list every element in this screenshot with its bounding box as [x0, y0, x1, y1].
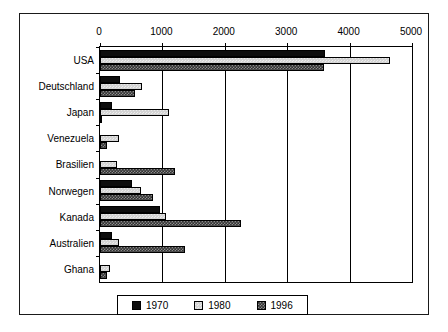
category-label: USA — [73, 55, 94, 66]
x-axis-tick-labels: 010002000300040005000 — [20, 25, 430, 39]
category-label: Deutschland — [38, 81, 94, 92]
bar-1980-kanada — [100, 213, 166, 220]
legend-label: 1980 — [208, 300, 230, 311]
category-label: Australien — [50, 237, 94, 248]
x-tick-label: 5000 — [400, 25, 422, 39]
swatch-1980-icon — [194, 301, 203, 310]
legend-entry: 1980 — [194, 300, 230, 311]
bar-1970-norwegen — [100, 180, 132, 187]
x-tick-label: 4000 — [337, 25, 359, 39]
category-label: Kanada — [60, 211, 94, 222]
bar-1996-venezuela — [100, 142, 107, 149]
legend-label: 1996 — [271, 300, 293, 311]
y-tick-mark — [96, 125, 100, 126]
bar-1996-japan — [100, 116, 102, 123]
bar-group: Kanada — [100, 204, 412, 230]
bar-group: Japan — [100, 99, 412, 125]
bar-1970-japan — [100, 102, 112, 109]
bar-1996-deutschland — [100, 90, 135, 97]
y-tick-mark — [96, 230, 100, 231]
gridline — [412, 47, 413, 282]
bar-1970-kanada — [100, 206, 160, 213]
x-tick-label: 3000 — [275, 25, 297, 39]
legend-entry: 1996 — [257, 300, 293, 311]
bar-group: Ghana — [100, 256, 412, 282]
bar-1980-venezuela — [100, 135, 119, 142]
bar-group: USA — [100, 47, 412, 73]
category-label: Ghana — [64, 263, 94, 274]
bar-1996-brasilien — [100, 168, 175, 175]
bar-1980-japan — [100, 109, 169, 116]
category-label: Brasilien — [56, 159, 94, 170]
bar-group: Australien — [100, 230, 412, 256]
plot-area: USADeutschlandJapanVenezuelaBrasilienNor… — [99, 46, 413, 283]
bar-1996-australien — [100, 246, 185, 253]
y-tick-mark — [96, 47, 100, 48]
bar-1980-ghana — [100, 265, 110, 272]
bar-group: Norwegen — [100, 178, 412, 204]
bar-group: Deutschland — [100, 73, 412, 99]
x-tick-label: 1000 — [150, 25, 172, 39]
bar-1980-usa — [100, 57, 390, 64]
bar-1970-australien — [100, 232, 112, 239]
bar-1996-norwegen — [100, 194, 153, 201]
bar-1996-kanada — [100, 220, 241, 227]
y-tick-mark — [96, 178, 100, 179]
chart-frame: 010002000300040005000 USADeutschlandJapa… — [19, 13, 429, 315]
y-tick-mark — [96, 99, 100, 100]
legend-label: 1970 — [146, 300, 168, 311]
bar-group: Venezuela — [100, 125, 412, 151]
bar-1970-usa — [100, 50, 325, 57]
bar-1980-brasilien — [100, 161, 117, 168]
legend-entry: 1970 — [132, 300, 168, 311]
bar-1996-ghana — [100, 272, 107, 279]
bar-1980-deutschland — [100, 83, 142, 90]
category-label: Norwegen — [48, 185, 94, 196]
category-label: Venezuela — [47, 133, 94, 144]
bar-1980-australien — [100, 239, 119, 246]
category-label: Japan — [67, 107, 94, 118]
swatch-1996-icon — [257, 301, 266, 310]
bar-1996-usa — [100, 64, 324, 71]
chart-legend: 197019801996 — [117, 295, 308, 315]
x-tick-label: 0 — [96, 25, 102, 39]
bar-group: Brasilien — [100, 151, 412, 177]
bar-1970-deutschland — [100, 76, 120, 83]
y-tick-mark — [96, 204, 100, 205]
x-tick-label: 2000 — [213, 25, 235, 39]
y-tick-mark — [96, 256, 100, 257]
x-tick-mark — [412, 43, 413, 47]
swatch-1970-icon — [132, 301, 141, 310]
y-tick-mark — [96, 73, 100, 74]
y-tick-mark — [96, 151, 100, 152]
bar-1980-norwegen — [100, 187, 141, 194]
bar-rows: USADeutschlandJapanVenezuelaBrasilienNor… — [100, 47, 412, 282]
